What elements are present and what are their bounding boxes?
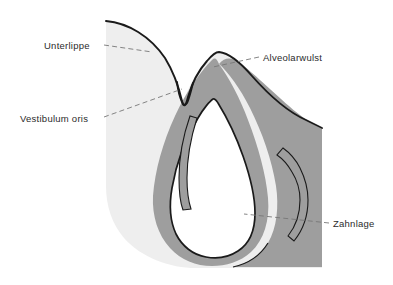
label-unterlippe: Unterlippe	[44, 40, 90, 51]
label-alveolarwulst: Alveolarwulst	[263, 52, 322, 63]
anatomical-diagram-figure: Unterlippe Vestibulum oris Alveolarwulst…	[0, 0, 393, 285]
label-vestibulum-oris: Vestibulum oris	[20, 113, 88, 124]
label-zahnlage: Zahnlage	[333, 218, 375, 229]
diagram-canvas: Unterlippe Vestibulum oris Alveolarwulst…	[0, 0, 393, 285]
